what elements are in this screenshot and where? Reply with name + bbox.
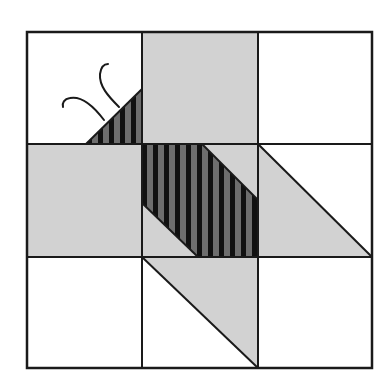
cell-middle-left — [27, 144, 142, 257]
quilt-block-svg — [0, 0, 389, 390]
cell-top-middle — [142, 32, 258, 144]
quilt-block-figure — [0, 0, 389, 390]
